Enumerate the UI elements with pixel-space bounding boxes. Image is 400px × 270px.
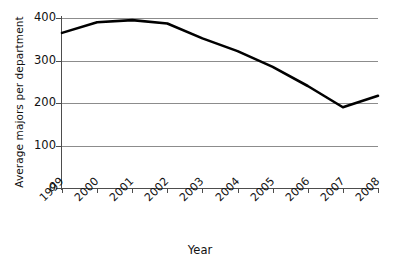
series-line-layer: [0, 0, 400, 270]
x-axis-title: Year: [0, 243, 400, 257]
line-chart: Average majors per department 0100200300…: [0, 0, 400, 270]
series-line-average-majors: [62, 20, 378, 107]
